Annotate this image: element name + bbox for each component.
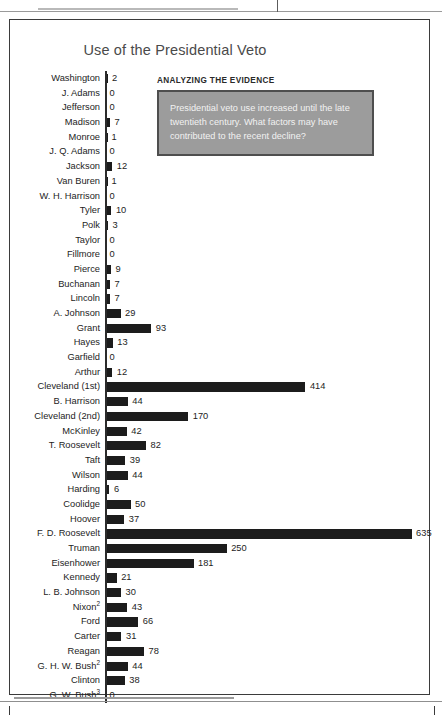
bar-value: 13 (117, 335, 127, 350)
bar-value: 12 (117, 159, 127, 174)
bar-label: Tyler (80, 203, 100, 218)
bar-row: Wilson44 (10, 468, 431, 483)
bar-fill (107, 573, 117, 582)
bar-row: Truman250 (10, 541, 431, 556)
bar-label: Kennedy (63, 570, 100, 585)
bar-fill (107, 280, 110, 289)
bar-row: Monroe1 (10, 130, 431, 145)
bar-fill (107, 603, 128, 612)
bar-label: W. H. Harrison (40, 189, 100, 204)
bar-row: Hayes13 (10, 335, 431, 350)
bar-label: J. Q. Adams (49, 144, 100, 159)
bar-label: Fillmore (67, 247, 100, 262)
bar-fill (107, 588, 121, 597)
bar-label: Polk (82, 218, 100, 233)
bar-fill (107, 221, 108, 230)
bar-row: A. Johnson29 (10, 306, 431, 321)
page-bottom-rule-accent (14, 697, 234, 699)
bar-label: Eisenhower (51, 556, 100, 571)
bar-row: B. Harrison44 (10, 394, 431, 409)
bar-label: Carter (74, 629, 100, 644)
bar-value: 29 (125, 306, 135, 321)
bar-label: Pierce (74, 262, 100, 277)
figure-title: Use of the Presidential Veto (10, 42, 340, 58)
bar-row: Tyler10 (10, 203, 431, 218)
bar-row: L. B. Johnson30 (10, 585, 431, 600)
bar-row: J. Q. Adams0 (10, 144, 431, 159)
bar-row: Jefferson0 (10, 100, 431, 115)
bar-row: Taft39 (10, 453, 431, 468)
bar-fill (107, 559, 194, 568)
bar-value: 9 (115, 262, 120, 277)
bar-label-footnote: 2 (96, 600, 100, 607)
bar-value: 2 (112, 71, 117, 86)
bar-fill (107, 456, 126, 465)
bar-label: Nixon2 (73, 600, 100, 615)
bar-value: 12 (117, 365, 127, 380)
bar-fill (107, 206, 112, 215)
bar-value: 0 (110, 189, 115, 204)
bar-value: 170 (193, 409, 209, 424)
bar-value: 78 (149, 644, 159, 659)
bar-label: Taylor (75, 233, 100, 248)
bar-row: Kennedy21 (10, 570, 431, 585)
bar-value: 50 (135, 497, 145, 512)
bar-label: Clinton (71, 673, 100, 688)
bar-label: Hoover (70, 512, 100, 527)
bar-label: Hayes (74, 335, 100, 350)
bar-fill (107, 265, 111, 274)
bar-label: Truman (68, 541, 100, 556)
bar-label: A. Johnson (53, 306, 100, 321)
bar-row: Eisenhower181 (10, 556, 431, 571)
bar-value: 250 (231, 541, 247, 556)
bar-value: 66 (143, 614, 153, 629)
bar-label: Washington (51, 71, 100, 86)
bar-row: McKinley42 (10, 424, 431, 439)
bar-value: 7 (114, 277, 119, 292)
bar-label: Coolidge (63, 497, 100, 512)
bar-value: 7 (114, 291, 119, 306)
bar-row: Buchanan7 (10, 277, 431, 292)
bar-value: 37 (129, 512, 139, 527)
bar-fill (107, 74, 108, 83)
bar-label: G. H. W. Bush2 (38, 659, 100, 674)
bar-value: 31 (126, 629, 136, 644)
bar-label: T. Roosevelt (49, 438, 100, 453)
bar-label: Buchanan (58, 277, 100, 292)
bar-value: 414 (310, 379, 326, 394)
bar-fill (107, 647, 144, 656)
bar-value: 1 (112, 174, 117, 189)
bar-row: J. Adams0 (10, 86, 431, 101)
bar-label: Monroe (68, 130, 100, 145)
bar-fill (107, 485, 110, 494)
bar-label: Jefferson (62, 100, 100, 115)
bar-value: 38 (129, 673, 139, 688)
bar-label: J. Adams (62, 86, 100, 101)
bar-value: 0 (110, 100, 115, 115)
bar-label: McKinley (62, 424, 100, 439)
bar-value: 6 (114, 482, 119, 497)
bar-fill (107, 162, 113, 171)
bar-fill (107, 529, 412, 538)
bar-label: Harding (67, 482, 100, 497)
bar-label: Taft (85, 453, 100, 468)
bar-row: T. Roosevelt82 (10, 438, 431, 453)
bar-fill (107, 515, 125, 524)
bar-fill (107, 338, 113, 347)
bar-row: Jackson12 (10, 159, 431, 174)
chart-bar-rows: Washington2J. Adams0Jefferson0Madison7Mo… (10, 71, 431, 703)
figure-frame: Use of the Presidential Veto ANALYZING T… (9, 19, 430, 695)
bar-value: 7 (114, 115, 119, 130)
bar-label: Reagan (67, 644, 100, 659)
bar-value: 44 (132, 659, 142, 674)
bar-label: Madison (65, 115, 100, 130)
bar-label: Garfield (67, 350, 100, 365)
bar-fill (107, 118, 110, 127)
bar-row: Hoover37 (10, 512, 431, 527)
bar-row: Washington2 (10, 71, 431, 86)
bar-value: 0 (110, 144, 115, 159)
bar-fill (107, 368, 113, 377)
bar-value: 1 (112, 130, 117, 145)
bar-row: Taylor0 (10, 233, 431, 248)
bar-fill (107, 471, 128, 480)
